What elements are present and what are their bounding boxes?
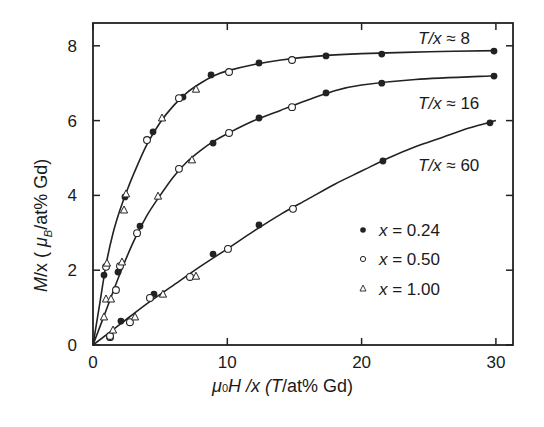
filled-circle-marker [380, 158, 387, 165]
y-tick-label: 8 [68, 37, 77, 56]
filled-circle-marker [256, 60, 263, 67]
annotation-t-over-x-16: T/x ≈ 16 [418, 94, 479, 113]
x-tick-label: 10 [218, 353, 237, 372]
open-circle-marker [134, 230, 141, 237]
open-circle-marker [290, 205, 297, 212]
filled-circle-marker [210, 140, 217, 147]
open-triangle-marker [100, 313, 107, 320]
filled-circle-marker [256, 115, 263, 122]
filled-circle-marker [491, 48, 498, 55]
open-circle-marker [147, 294, 154, 301]
filled-circle-marker [208, 72, 215, 79]
filled-circle-marker [378, 80, 385, 87]
open-circle-marker [289, 104, 296, 111]
filled-circle-marker [150, 128, 157, 135]
legend-label-x050: x = 0.50 [378, 250, 440, 269]
legend-filled-circle-icon [360, 227, 366, 233]
legend-open-triangle-icon [360, 285, 366, 291]
open-triangle-marker [107, 295, 114, 302]
open-circle-marker [226, 69, 233, 76]
filled-circle-marker [491, 73, 498, 80]
y-tick-label: 6 [68, 112, 77, 131]
legend-label-x100: x = 1.00 [378, 280, 440, 299]
x-tick-label: 30 [486, 353, 505, 372]
y-tick-label: 2 [68, 261, 77, 280]
y-tick-label: 4 [68, 186, 77, 205]
filled-circle-marker [101, 272, 108, 279]
annotation-t-over-x-8: T/x ≈ 8 [418, 29, 470, 48]
open-circle-marker [176, 165, 183, 172]
annotation-t-over-x-60: T/x ≈ 60 [418, 156, 479, 175]
open-circle-marker [225, 245, 232, 252]
magnetization-chart: 010203002468 T/x ≈ 8 T/x ≈ 16 T/x ≈ 60 x… [0, 0, 544, 427]
filled-circle-marker [487, 119, 494, 126]
open-triangle-marker [103, 259, 110, 266]
open-circle-marker [289, 57, 296, 64]
filled-circle-marker [210, 251, 217, 258]
legend: x = 0.24 x = 0.50 x = 1.00 [360, 221, 440, 299]
open-circle-marker [226, 130, 233, 137]
filled-circle-marker [323, 52, 330, 59]
y-axis-label: M/x ( μB/at% Gd) [31, 159, 54, 292]
open-circle-marker [107, 333, 114, 340]
x-axis-label: μ0H /x (T/at% Gd) [211, 376, 353, 396]
legend-open-circle-icon [360, 256, 365, 261]
y-tick-label: 0 [68, 336, 77, 355]
open-circle-marker [113, 287, 120, 294]
filled-circle-marker [378, 51, 385, 58]
open-circle-marker [144, 137, 151, 144]
filled-circle-marker [323, 90, 330, 97]
x-tick-label: 0 [88, 353, 97, 372]
filled-circle-marker [118, 318, 125, 325]
legend-label-x024: x = 0.24 [378, 221, 440, 240]
filled-circle-marker [256, 222, 263, 229]
x-tick-label: 20 [352, 353, 371, 372]
open-circle-marker [176, 95, 183, 102]
open-triangle-marker [122, 190, 129, 197]
filled-circle-marker [137, 223, 144, 230]
